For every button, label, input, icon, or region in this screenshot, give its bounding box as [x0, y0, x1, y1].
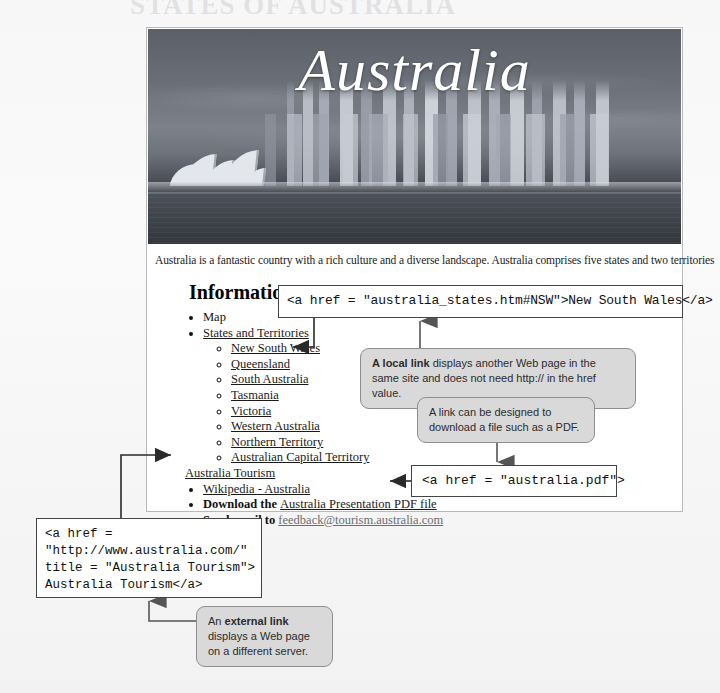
- link-northern-territory[interactable]: Northern Territory: [231, 435, 323, 449]
- link-feedback-email[interactable]: feedback@tourism.australia.com: [278, 513, 443, 527]
- link-queensland[interactable]: Queensland: [231, 357, 290, 371]
- link-australia-presentation-pdf[interactable]: Australia Presentation PDF file: [280, 497, 437, 511]
- hero-banner: Australia: [148, 29, 681, 244]
- skyline-buildings-front-icon: [265, 114, 638, 186]
- opera-house-icon: [169, 142, 265, 186]
- annotation-pdf-line1: A link can be designed to: [429, 405, 583, 420]
- list-item-label: Map: [203, 310, 226, 324]
- code-box-new-south-wales: <a href = "australia_states.htm#NSW">New…: [278, 285, 683, 318]
- link-australian-capital-territory[interactable]: Australian Capital Territory: [231, 450, 369, 464]
- hero-title: Australia: [148, 37, 681, 103]
- link-western-australia[interactable]: Western Australia: [231, 419, 320, 433]
- link-australia-tourism[interactable]: Australia Tourism: [185, 466, 275, 480]
- link-tasmania[interactable]: Tasmania: [231, 388, 279, 402]
- link-states-and-territories[interactable]: States and Territories: [203, 326, 309, 340]
- download-prefix-label: Download the: [203, 497, 280, 511]
- ghost-page-heading: STATES OF AUSTRALIA: [130, 0, 456, 21]
- web-page-card: Australia Australia is a fantastic count…: [146, 27, 683, 512]
- code-box-pdf-link: <a href = "australia.pdf">: [411, 465, 617, 497]
- annotation-external-bold: external link: [225, 615, 289, 627]
- list-item-state: Australian Capital Territory: [231, 450, 674, 466]
- list-item-email: Send email to feedback@tourism.australia…: [203, 513, 674, 529]
- annotation-external-link: An external link displays a Web page on …: [196, 606, 333, 667]
- annotation-pdf-link: A link can be designed to download a fil…: [417, 397, 595, 443]
- annotation-external-prefix: An: [208, 615, 225, 627]
- annotation-external-rest: displays a Web page on a different serve…: [208, 630, 310, 657]
- hero-harbour-water: [148, 192, 681, 244]
- annotation-pdf-line2: download a file such as a PDF.: [429, 420, 583, 435]
- link-victoria[interactable]: Victoria: [231, 404, 271, 418]
- link-wikipedia-australia[interactable]: Wikipedia - Australia: [203, 482, 310, 496]
- link-new-south-wales[interactable]: New South Wales: [231, 341, 320, 355]
- intro-paragraph: Australia is a fantastic country with a …: [155, 254, 674, 266]
- list-item-download: Download the Australia Presentation PDF …: [203, 497, 674, 513]
- annotation-local-link-bold: A local link: [372, 357, 430, 369]
- code-box-australia-tourism: <a href = "http://www.australia.com/" ti…: [36, 518, 262, 598]
- link-south-australia[interactable]: South Australia: [231, 372, 308, 386]
